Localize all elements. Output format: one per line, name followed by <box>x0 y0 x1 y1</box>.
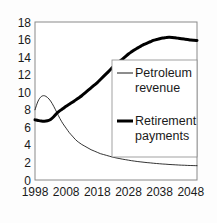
x-tick-label: 2038 <box>146 185 173 199</box>
x-tick-label: 2028 <box>115 185 142 199</box>
line-chart: 18 16 14 12 10 8 6 4 2 0 1998 2008 2018 … <box>0 0 217 223</box>
legend-label-petroleum-line1: Petroleum <box>135 66 192 80</box>
y-tick-label: 6 <box>24 121 31 135</box>
x-tick-label: 1998 <box>22 185 49 199</box>
legend-label-retirement-line2: payments <box>135 129 189 143</box>
y-tick-label: 4 <box>24 138 31 152</box>
x-tick-label: 2048 <box>177 185 204 199</box>
y-tick-label: 2 <box>24 156 31 170</box>
x-axis-tick-labels: 1998 2008 2018 2028 2038 2048 <box>22 185 205 199</box>
y-tick-label: 8 <box>24 103 31 117</box>
y-tick-label: 14 <box>18 51 32 65</box>
y-tick-label: 18 <box>18 16 32 30</box>
x-tick-label: 2008 <box>53 185 80 199</box>
chart-legend: Petroleum revenue Retirement payments <box>112 60 197 157</box>
y-tick-label: 12 <box>18 68 32 82</box>
y-tick-label: 16 <box>18 33 32 47</box>
legend-label-retirement-line1: Retirement <box>135 114 197 128</box>
x-tick-label: 2018 <box>84 185 111 199</box>
chart-figure: 18 16 14 12 10 8 6 4 2 0 1998 2008 2018 … <box>0 0 217 223</box>
legend-label-petroleum-line2: revenue <box>135 81 180 95</box>
y-axis-tick-labels: 18 16 14 12 10 8 6 4 2 0 <box>18 16 32 188</box>
y-tick-label: 10 <box>18 86 32 100</box>
